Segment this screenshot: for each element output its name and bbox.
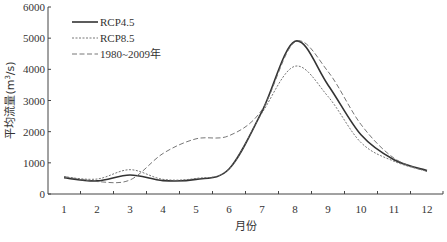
series-lines — [64, 41, 427, 183]
x-tick-label: 11 — [389, 203, 400, 215]
legend-label: RCP4.5 — [100, 16, 135, 28]
y-axis-title: 平均流量(m3/s) — [3, 61, 17, 138]
x-tick-label: 12 — [422, 203, 433, 215]
x-tick-label: 3 — [127, 203, 133, 215]
line-chart: 0100020003000400050006000123456789101112… — [0, 0, 447, 242]
x-tick-label: 2 — [94, 203, 100, 215]
x-tick-label: 7 — [259, 203, 265, 215]
y-tick-label: 6000 — [23, 1, 46, 13]
legend-label: 1980~2009年 — [100, 47, 161, 60]
x-tick-label: 1 — [61, 203, 67, 215]
x-tick-label: 5 — [193, 203, 199, 215]
x-tick-label: 4 — [160, 203, 166, 215]
axes: 0100020003000400050006000123456789101112 — [23, 1, 443, 215]
y-tick-label: 3000 — [23, 95, 46, 107]
series-line-2 — [64, 41, 427, 183]
series-line-1 — [64, 66, 427, 180]
y-tick-label: 5000 — [23, 32, 46, 44]
legend: RCP4.5RCP8.51980~2009年 — [72, 16, 161, 60]
legend-label: RCP8.5 — [100, 32, 135, 44]
x-tick-label: 10 — [356, 203, 368, 215]
x-tick-label: 8 — [292, 203, 298, 215]
y-tick-label: 1000 — [23, 157, 46, 169]
y-tick-label: 0 — [40, 188, 46, 200]
x-tick-label: 9 — [325, 203, 331, 215]
x-tick-label: 6 — [226, 203, 232, 215]
x-axis-title: 月份 — [235, 220, 257, 233]
y-tick-label: 2000 — [23, 126, 46, 138]
series-line-0 — [64, 41, 427, 181]
y-tick-label: 4000 — [23, 63, 46, 75]
